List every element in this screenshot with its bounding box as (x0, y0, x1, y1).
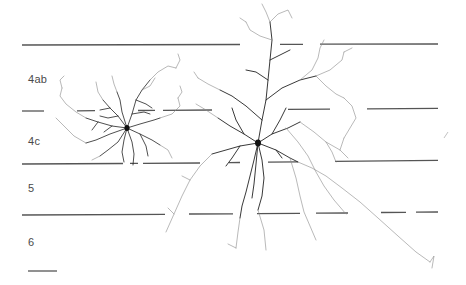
boundary-top-4ab (22, 44, 438, 45)
soma-small (124, 125, 129, 131)
boundary-5-6 (22, 212, 438, 215)
boundary-4ab-4c (22, 108, 438, 111)
layer-label-5: 5 (28, 182, 34, 194)
small-stellate-neuron (56, 54, 182, 165)
layer-label-4ab: 4ab (28, 73, 47, 85)
layer-label-6: 6 (28, 236, 34, 248)
soma-large (255, 140, 261, 147)
layer-label-4c: 4c (28, 135, 40, 147)
neuron-figure (0, 0, 466, 285)
stray-fragment (444, 132, 448, 138)
layer-boundaries (22, 44, 438, 215)
